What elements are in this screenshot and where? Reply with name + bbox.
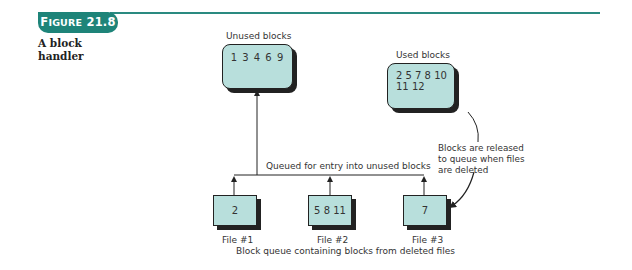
file-3-contents: 7 [404, 205, 446, 216]
file-1-label: File #1 [222, 235, 253, 245]
file-2-label: File #2 [317, 235, 348, 245]
file-3-label: File #3 [412, 235, 443, 245]
unused-blocks-contents: 1 3 4 6 9 [223, 52, 292, 63]
release-note-line-2: to queue when files [438, 154, 525, 165]
release-note-line-3: are deleted [438, 165, 525, 176]
queue-label: Queued for entry into unused blocks [266, 161, 431, 171]
unused-blocks-box: 1 3 4 6 9 [222, 44, 293, 89]
file-2-box: 5 8 11 [308, 195, 352, 226]
queue-caption: Block queue containing blocks from delet… [236, 246, 455, 256]
file-1-box: 2 [213, 195, 257, 226]
file-3-box: 7 [403, 195, 447, 226]
used-blocks-title: Used blocks [396, 50, 450, 60]
used-blocks-line-1: 2 5 7 8 10 [396, 70, 447, 81]
connector-lines [0, 0, 632, 270]
used-blocks-contents: 2 5 7 8 10 11 12 [396, 70, 447, 92]
file-1-contents: 2 [214, 205, 256, 216]
file-2-contents: 5 8 11 [309, 205, 351, 216]
used-blocks-box: 2 5 7 8 10 11 12 [387, 63, 455, 109]
unused-blocks-title: Unused blocks [226, 31, 291, 41]
used-blocks-line-2: 11 12 [396, 81, 447, 92]
release-note-line-1: Blocks are released [438, 143, 525, 154]
release-note: Blocks are released to queue when files … [438, 143, 525, 176]
